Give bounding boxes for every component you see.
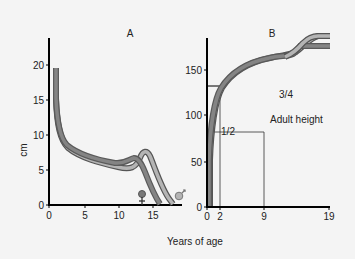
growth-charts: A 0 5 10 15 20 cm 0 5 10 15 [0, 0, 355, 259]
panel-a-x-ticks: 0 5 10 15 [46, 205, 159, 221]
panel-a: A 0 5 10 15 20 cm 0 5 10 15 [18, 28, 185, 221]
tick-label: 15 [33, 95, 45, 106]
tick-label: 19 [323, 211, 335, 222]
tick-label: 150 [185, 65, 202, 76]
tick-label: 0 [196, 202, 202, 213]
tick-label: 0 [38, 200, 44, 211]
tick-label: 0 [204, 211, 210, 222]
panel-a-ylabel: cm [18, 143, 29, 156]
panel-a-y-ticks: 0 5 10 15 20 [33, 60, 49, 211]
tick-label: 0 [46, 210, 52, 221]
tick-label: 100 [185, 110, 202, 121]
tick-label: 2 [217, 211, 223, 222]
annotation-three-quarter: 3/4 [279, 89, 293, 100]
annotation-half: 1/2 [221, 126, 235, 137]
tick-label: 20 [33, 60, 45, 71]
panel-b-y-ticks: 0 50 100 150 [185, 65, 207, 213]
male-symbol-icon [175, 190, 185, 200]
panel-a-girls-curve [56, 68, 160, 204]
tick-label: 9 [261, 211, 267, 222]
panel-a-title: A [127, 28, 134, 39]
panel-b: B 0 50 [185, 28, 335, 222]
female-symbol-icon [139, 191, 146, 206]
tick-label: 5 [82, 210, 88, 221]
x-axis-label: Years of age [167, 236, 223, 247]
panel-a-boys-curve [56, 69, 173, 204]
panel-b-title: B [269, 28, 276, 39]
panel-b-x-ticks: 0 2 9 19 [204, 207, 335, 222]
tick-label: 5 [38, 165, 44, 176]
tick-label: 50 [191, 157, 203, 168]
tick-label: 15 [147, 210, 159, 221]
tick-label: 10 [33, 130, 45, 141]
annotation-adult-height-label: Adult height [270, 114, 323, 125]
tick-label: 10 [113, 210, 125, 221]
